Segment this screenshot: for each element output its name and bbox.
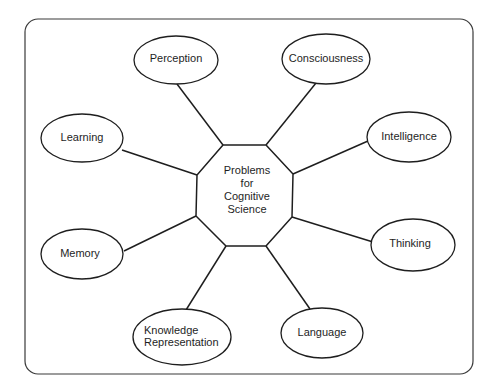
edge-perception <box>177 84 223 145</box>
cognitive-science-diagram: ProblemsforCognitiveScience PerceptionCo… <box>0 0 497 391</box>
edge-knowledge-representation <box>186 246 226 310</box>
node-thinking: Thinking <box>371 219 455 271</box>
label-line: Memory <box>60 247 100 259</box>
edge-language <box>266 246 310 309</box>
center-label-line: Problems <box>224 164 271 176</box>
label-intelligence: Intelligence <box>381 130 437 142</box>
label-learning: Learning <box>61 131 104 143</box>
node-knowledge-representation: KnowledgeRepresentation <box>133 309 231 365</box>
label-line: Learning <box>61 131 104 143</box>
node-intelligence: Intelligence <box>367 112 451 162</box>
center-label-line: Cognitive <box>224 190 270 202</box>
node-memory: Memory <box>41 229 123 279</box>
label-line: Knowledge <box>144 324 198 336</box>
label-memory: Memory <box>60 247 100 259</box>
node-perception: Perception <box>134 36 218 84</box>
label-line: Language <box>298 326 347 338</box>
label-perception: Perception <box>150 52 203 64</box>
label-line: Consciousness <box>289 52 364 64</box>
node-learning: Learning <box>41 114 123 162</box>
edge-thinking <box>292 217 373 242</box>
edge-memory <box>124 216 196 251</box>
label-line: Thinking <box>389 237 431 249</box>
center-label-line: for <box>241 177 254 189</box>
label-line: Perception <box>150 52 203 64</box>
label-line: Intelligence <box>381 130 437 142</box>
edge-intelligence <box>293 141 368 174</box>
label-language: Language <box>298 326 347 338</box>
edge-learning <box>122 150 197 175</box>
node-language: Language <box>281 308 363 358</box>
center-label-line: Science <box>227 203 266 215</box>
label-consciousness: Consciousness <box>289 52 364 64</box>
label-line: Representation <box>144 336 219 348</box>
center-node-label: ProblemsforCognitiveScience <box>224 164 271 215</box>
node-consciousness: Consciousness <box>282 34 370 84</box>
edge-consciousness <box>266 83 316 145</box>
label-thinking: Thinking <box>389 237 431 249</box>
